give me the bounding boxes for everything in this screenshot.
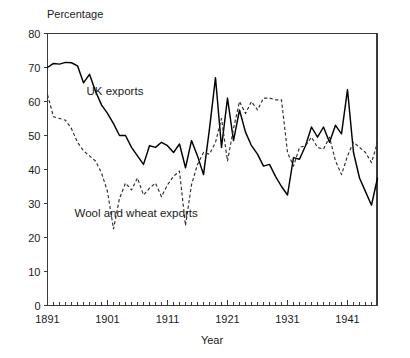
series-annotation-label: Wool and wheat exports	[75, 207, 198, 219]
y-tick-label: 0	[34, 300, 40, 312]
y-tick-label: 10	[28, 266, 40, 278]
x-tick-label: 1911	[156, 313, 180, 325]
x-tick-label: 1891	[35, 313, 59, 325]
y-tick-label: 50	[28, 130, 40, 142]
x-tick-label: 1901	[95, 313, 119, 325]
y-tick-label: 60	[28, 96, 40, 108]
chart-figure: Percentage 01020304050607080 18911901191…	[0, 0, 410, 358]
x-tick-label: 1931	[275, 313, 299, 325]
line-chart: Percentage 01020304050607080 18911901191…	[0, 0, 410, 358]
series-annotation-label: UK exports	[87, 85, 144, 97]
y-tick-label: 80	[28, 28, 40, 40]
y-tick-label: 30	[28, 198, 40, 210]
x-tick-label: 1941	[335, 313, 359, 325]
x-axis-title: Year	[201, 334, 224, 346]
y-tick-label: 40	[28, 164, 40, 176]
chart-background	[0, 0, 410, 358]
y-axis-title: Percentage	[47, 8, 103, 20]
y-tick-label: 70	[28, 62, 40, 74]
y-tick-label: 20	[28, 232, 40, 244]
x-tick-label: 1921	[215, 313, 239, 325]
